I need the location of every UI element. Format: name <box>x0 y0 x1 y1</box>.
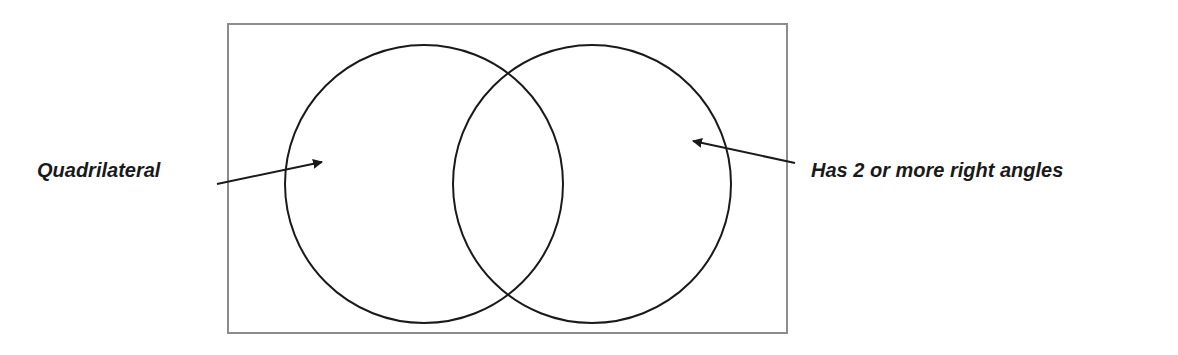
set-circle-quadrilateral <box>285 45 563 323</box>
set-circle-right-angles <box>453 45 731 323</box>
universal-set-frame <box>228 24 787 333</box>
arrow-right-angles <box>693 141 795 163</box>
label-right-angles: Has 2 or more right angles <box>811 159 1063 182</box>
label-quadrilateral: Quadrilateral <box>37 159 160 182</box>
arrow-quadrilateral <box>217 162 322 184</box>
